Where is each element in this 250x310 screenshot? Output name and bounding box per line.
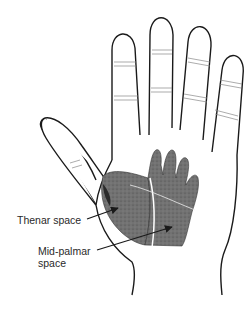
midpalmar-space-label-line1: Mid-palmar xyxy=(38,246,91,257)
little-finger xyxy=(212,55,243,155)
middle-finger xyxy=(149,18,173,135)
midpalmar-space-label-line2: space xyxy=(38,258,66,269)
ring-finger xyxy=(180,27,211,140)
index-finger xyxy=(112,34,140,160)
thenar-space xyxy=(102,172,151,245)
thenar-space-label: Thenar space xyxy=(17,215,81,226)
